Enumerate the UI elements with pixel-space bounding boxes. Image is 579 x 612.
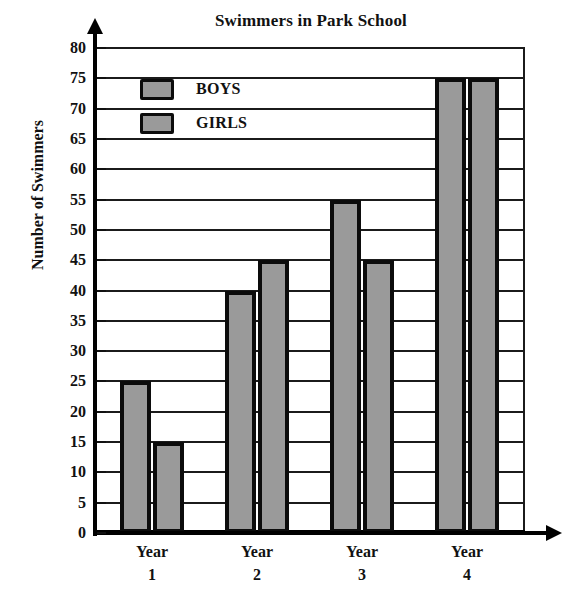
legend-swatch-girls: [140, 113, 174, 134]
y-axis-tick-mark: [97, 350, 106, 352]
x-axis-label-line1: Year: [451, 543, 483, 560]
x-axis-label-line1: Year: [136, 543, 168, 560]
x-axis-label-year-4: Year4: [407, 540, 527, 586]
y-axis-arrow-icon: [87, 18, 103, 34]
y-axis-tick-mark: [97, 199, 106, 201]
y-axis-tick-label: 15: [70, 434, 86, 450]
bar-girls-year-2: [258, 260, 289, 533]
y-axis-tick-label: 80: [70, 40, 86, 56]
gridline: [97, 47, 525, 49]
y-axis-tick-mark: [97, 471, 106, 473]
x-axis-arrow-icon: [546, 525, 562, 541]
y-axis-tick-label: 20: [70, 404, 86, 420]
x-axis-label-line2: 3: [302, 563, 422, 586]
y-axis-tick-label: 75: [70, 70, 86, 86]
y-axis-line: [93, 30, 97, 536]
y-axis-tick-mark: [97, 168, 106, 170]
y-axis-tick-label: 50: [70, 222, 86, 238]
x-axis-label-line1: Year: [346, 543, 378, 560]
y-axis-tick-label: 25: [70, 373, 86, 389]
y-axis-tick-mark: [97, 77, 106, 79]
legend-item-boys: BOYS: [140, 74, 320, 104]
x-axis-label-year-3: Year3: [302, 540, 422, 586]
y-axis-tick-mark: [97, 441, 106, 443]
x-axis-label-line2: 1: [92, 563, 212, 586]
y-axis-tick-label: 10: [70, 464, 86, 480]
chart-legend: BOYSGIRLS: [140, 74, 320, 142]
y-axis-tick-label: 55: [70, 192, 86, 208]
y-axis-tick-label: 60: [70, 161, 86, 177]
y-axis-tick-mark: [97, 380, 106, 382]
chart-title: Swimmers in Park School: [97, 11, 525, 31]
bar-boys-year-1: [120, 381, 151, 533]
y-axis-tick-label: 45: [70, 252, 86, 268]
y-axis-tick-mark: [97, 138, 106, 140]
bar-girls-year-4: [468, 78, 499, 533]
y-axis-tick-labels: 80757065605550454035302520151050: [40, 0, 86, 612]
y-axis-tick-label: 30: [70, 343, 86, 359]
bar-boys-year-2: [225, 291, 256, 534]
x-axis-label-line2: 2: [197, 563, 317, 586]
y-axis-tick-label: 35: [70, 313, 86, 329]
x-axis-label-line1: Year: [241, 543, 273, 560]
y-axis-tick-label: 40: [70, 283, 86, 299]
x-axis-label-year-1: Year1: [92, 540, 212, 586]
y-axis-tick-label: 65: [70, 131, 86, 147]
bar-girls-year-1: [153, 442, 184, 533]
bar-boys-year-4: [435, 78, 466, 533]
bar-boys-year-3: [330, 200, 361, 533]
legend-swatch-boys: [140, 79, 174, 100]
x-axis-label-year-2: Year2: [197, 540, 317, 586]
y-axis-tick-mark: [97, 259, 106, 261]
x-axis-line: [93, 531, 548, 535]
y-axis-tick-mark: [97, 532, 106, 534]
y-axis-tick-mark: [97, 229, 106, 231]
x-axis-label-line2: 4: [407, 563, 527, 586]
y-axis-tick-mark: [97, 47, 106, 49]
y-axis-tick-label: 70: [70, 101, 86, 117]
y-axis-tick-mark: [97, 290, 106, 292]
legend-item-girls: GIRLS: [140, 108, 320, 138]
bar-chart: Swimmers in Park School Number of Swimme…: [0, 0, 579, 612]
y-axis-tick-mark: [97, 502, 106, 504]
y-axis-tick-mark: [97, 320, 106, 322]
legend-label: GIRLS: [196, 114, 247, 132]
y-axis-tick-label: 0: [78, 525, 86, 541]
y-axis-tick-mark: [97, 108, 106, 110]
y-axis-tick-mark: [97, 411, 106, 413]
y-axis-tick-label: 5: [78, 495, 86, 511]
bar-girls-year-3: [363, 260, 394, 533]
legend-label: BOYS: [196, 80, 241, 98]
